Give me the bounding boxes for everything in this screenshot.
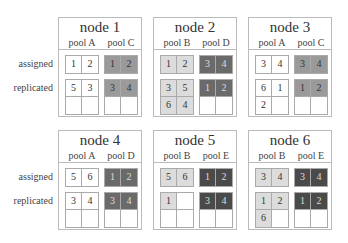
partition-cell: 6 [161, 97, 177, 114]
header-divider [249, 162, 331, 163]
replicated-partitions-c: 34 [104, 79, 138, 115]
partition-cell: 5 [161, 169, 177, 186]
assigned-partitions-e: 12 [199, 168, 233, 187]
partition-cell: 2 [311, 193, 327, 210]
partition-cell: 5 [177, 80, 193, 97]
replicated-partitions-d: 34 [104, 192, 138, 228]
replicated-partitions-b: 3564 [160, 79, 194, 115]
pool-label: pool E [294, 150, 328, 162]
empty-cell [311, 97, 327, 114]
empty-cell [272, 210, 288, 227]
partition-cell: 4 [82, 193, 98, 210]
empty-cell [105, 210, 121, 227]
replicated-partitions-a: 53 [65, 79, 99, 115]
partition-cell: 3 [256, 169, 272, 186]
node-title: node 6 [249, 132, 331, 149]
partition-cell: 4 [216, 56, 232, 73]
pool-label: pool B [160, 37, 194, 49]
header-divider [154, 162, 236, 163]
partition-cell: 1 [161, 56, 177, 73]
partition-cell: 3 [200, 193, 216, 210]
empty-cell [161, 210, 177, 227]
diagram-stage: assigned replicated assigned replicated … [0, 0, 348, 243]
empty-cell [177, 210, 193, 227]
partition-cell: 2 [121, 169, 137, 186]
empty-cell [295, 210, 311, 227]
assigned-partitions-a: 12 [65, 55, 99, 74]
partition-cell: 4 [121, 193, 137, 210]
row-label-replicated: replicated [1, 82, 53, 93]
empty-cell [66, 210, 82, 227]
node-box-2: node 2pool B123564pool D3412 [153, 17, 237, 117]
partition-cell: 6 [177, 169, 193, 186]
node-title: node 2 [154, 19, 236, 36]
node-title: node 5 [154, 132, 236, 149]
partition-cell: 3 [82, 80, 98, 97]
pool-label: pool B [255, 150, 289, 162]
empty-cell [295, 97, 311, 114]
assigned-partitions-a: 56 [65, 168, 99, 187]
assigned-partitions-b: 34 [255, 168, 289, 187]
empty-cell [177, 193, 193, 210]
node-title: node 1 [59, 19, 141, 36]
partition-cell: 3 [295, 56, 311, 73]
partition-cell: 2 [121, 56, 137, 73]
node-box-5: node 5pool B561pool E1234 [153, 130, 237, 230]
partition-cell: 5 [66, 80, 82, 97]
partition-cell: 4 [177, 97, 193, 114]
row-label-assigned: assigned [1, 58, 53, 69]
replicated-partitions-e: 34 [199, 192, 233, 228]
partition-cell: 1 [66, 56, 82, 73]
partition-cell: 3 [200, 56, 216, 73]
empty-cell [272, 97, 288, 114]
empty-cell [105, 97, 121, 114]
partition-cell: 3 [256, 56, 272, 73]
header-divider [59, 49, 141, 50]
replicated-partitions-a: 34 [65, 192, 99, 228]
partition-cell: 1 [105, 56, 121, 73]
partition-cell: 6 [256, 210, 272, 227]
node-title: node 4 [59, 132, 141, 149]
partition-cell: 5 [66, 169, 82, 186]
node-title: node 3 [249, 19, 331, 36]
partition-cell: 4 [216, 193, 232, 210]
assigned-partitions-b: 12 [160, 55, 194, 74]
empty-cell [82, 97, 98, 114]
empty-cell [311, 210, 327, 227]
partition-cell: 1 [161, 193, 177, 210]
pool-label: pool B [160, 150, 194, 162]
empty-cell [82, 210, 98, 227]
empty-cell [216, 97, 232, 114]
header-divider [59, 162, 141, 163]
assigned-partitions-a: 34 [255, 55, 289, 74]
pool-label: pool D [104, 150, 138, 162]
partition-cell: 4 [272, 56, 288, 73]
partition-cell: 3 [66, 193, 82, 210]
partition-cell: 2 [177, 56, 193, 73]
partition-cell: 2 [311, 80, 327, 97]
row-label-assigned: assigned [1, 171, 53, 182]
partition-cell: 4 [311, 56, 327, 73]
pool-label: pool C [294, 37, 328, 49]
partition-cell: 6 [256, 80, 272, 97]
replicated-partitions-e: 12 [294, 192, 328, 228]
assigned-partitions-d: 12 [104, 168, 138, 187]
partition-cell: 4 [272, 169, 288, 186]
node-box-4: node 4pool A5634pool D1234 [58, 130, 142, 230]
pool-label: pool D [199, 37, 233, 49]
partition-cell: 2 [82, 56, 98, 73]
partition-cell: 2 [216, 80, 232, 97]
partition-cell: 3 [295, 169, 311, 186]
empty-cell [216, 210, 232, 227]
partition-cell: 2 [256, 97, 272, 114]
replicated-partitions-b: 1 [160, 192, 194, 228]
partition-cell: 3 [105, 80, 121, 97]
assigned-partitions-c: 12 [104, 55, 138, 74]
assigned-partitions-b: 56 [160, 168, 194, 187]
partition-cell: 1 [256, 193, 272, 210]
pool-label: pool C [104, 37, 138, 49]
pool-label: pool A [65, 150, 99, 162]
header-divider [154, 49, 236, 50]
node-box-6: node 6pool B34126pool E3412 [248, 130, 332, 230]
empty-cell [66, 97, 82, 114]
